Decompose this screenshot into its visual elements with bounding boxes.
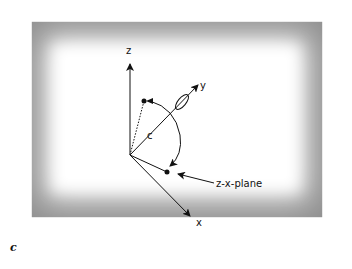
vector-top — [130, 101, 144, 155]
point-bottom — [165, 170, 170, 175]
angle-label: c — [147, 130, 153, 141]
figure-caption-letter: c — [10, 241, 17, 254]
rotation-arc — [150, 101, 181, 166]
annotation-label: z-x-plane — [216, 178, 262, 189]
annotation-arrow — [178, 174, 214, 183]
x-axis-label: x — [196, 217, 202, 228]
y-axis-label: y — [200, 80, 206, 91]
vector-bottom — [130, 155, 167, 172]
z-axis-label: z — [126, 45, 131, 56]
arc-start-arrow-icon — [146, 98, 153, 104]
x-axis — [130, 155, 190, 216]
point-top — [142, 99, 147, 104]
rotation-diagram: z y x c z-x-plane — [0, 0, 352, 269]
